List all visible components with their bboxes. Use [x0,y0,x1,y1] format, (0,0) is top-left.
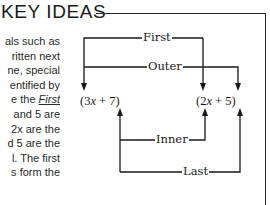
arrow-up-icon [117,108,123,116]
left-binomial-rest: + 7) [96,94,120,108]
label-last: Last [182,165,209,178]
left-binomial: (3x + 7) [80,94,120,108]
label-outer: Outer [147,60,183,73]
arrow-down-icon [81,83,87,91]
label-first: First [142,31,172,44]
first-connector [84,38,203,85]
right-binomial-open: (2 [196,94,206,108]
label-inner: Inner [155,133,189,146]
left-binomial-open: (3 [80,94,90,108]
foil-diagram: First Outer Inner Last (3x + 7) (2x + 5) [0,0,270,205]
arrow-up-icon [237,108,243,116]
arrow-down-icon [200,83,206,91]
arrow-down-icon [235,83,241,91]
right-binomial: (2x + 5) [196,94,236,108]
right-binomial-rest: + 5) [212,94,236,108]
arrow-up-icon [202,108,208,116]
